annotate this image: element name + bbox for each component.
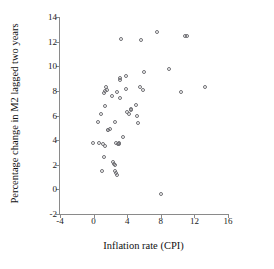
y-axis-title: Percentage change in M2 lagged two years xyxy=(9,14,20,214)
data-point xyxy=(167,67,171,71)
data-point xyxy=(139,38,143,42)
y-tick-label: 14 xyxy=(48,13,57,22)
data-point xyxy=(105,88,109,92)
data-point xyxy=(113,163,117,167)
y-tick-label: 6 xyxy=(53,111,58,120)
data-point xyxy=(115,90,119,94)
data-point xyxy=(155,30,159,34)
data-point xyxy=(121,135,125,139)
y-tick-label: 8 xyxy=(53,86,58,95)
data-point xyxy=(124,87,128,91)
x-tick-label: 16 xyxy=(224,217,233,226)
data-point xyxy=(103,104,107,108)
data-point-layer xyxy=(60,17,228,214)
y-tick-label: 2 xyxy=(53,160,58,169)
y-tick-label: 10 xyxy=(48,62,57,71)
y-tick-label: 4 xyxy=(53,136,58,145)
data-point xyxy=(102,155,106,159)
data-point xyxy=(110,94,114,98)
x-tick-label: -4 xyxy=(56,217,64,226)
data-point xyxy=(115,173,119,177)
y-tick-label: 12 xyxy=(48,37,57,46)
data-point xyxy=(135,114,139,118)
data-point xyxy=(134,103,138,107)
data-point xyxy=(119,37,123,41)
data-point xyxy=(141,88,145,92)
scatter-chart-figure: -202468101214 -40481216 Inflation rate (… xyxy=(0,0,274,269)
plot-area: -202468101214 -40481216 xyxy=(59,17,228,215)
x-tick-label: 8 xyxy=(159,217,164,226)
data-point xyxy=(117,142,121,146)
data-point xyxy=(91,141,95,145)
data-point xyxy=(100,169,104,173)
data-point xyxy=(179,90,183,94)
data-point xyxy=(203,85,207,89)
x-tick-label: 12 xyxy=(190,217,199,226)
x-tick-label: 4 xyxy=(125,217,130,226)
y-tick-label: 0 xyxy=(53,185,58,194)
data-point xyxy=(118,96,122,100)
data-point xyxy=(118,78,122,82)
data-point xyxy=(129,108,133,112)
data-point xyxy=(159,192,163,196)
data-point xyxy=(96,120,100,124)
data-point xyxy=(113,120,117,124)
data-point xyxy=(124,74,128,78)
x-axis-title: Inflation rate (CPI) xyxy=(59,240,228,251)
data-point xyxy=(185,34,189,38)
data-point xyxy=(136,121,140,125)
data-point xyxy=(142,70,146,74)
x-tick-label: 0 xyxy=(91,217,96,226)
data-point xyxy=(127,112,131,116)
data-point xyxy=(103,144,107,148)
data-point xyxy=(99,112,103,116)
data-point xyxy=(108,127,112,131)
